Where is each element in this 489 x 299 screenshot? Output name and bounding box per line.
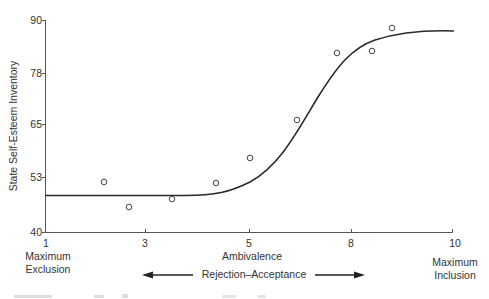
data-point	[213, 180, 219, 186]
x-tick-label: 5	[246, 237, 252, 249]
right-arrow-icon	[354, 272, 365, 279]
data-point	[101, 179, 107, 185]
fitted-curve	[45, 31, 454, 196]
data-point	[169, 196, 175, 202]
y-tick-label: 90	[30, 14, 42, 26]
y-tick-label: 78	[30, 67, 42, 79]
ambivalence-label: Ambivalence	[222, 250, 282, 263]
data-point	[389, 25, 395, 31]
data-point	[247, 155, 253, 161]
x-tick-label: 3	[142, 237, 148, 249]
y-tick-label: 40	[30, 226, 42, 238]
x-axis-label: Rejection–Acceptance	[202, 268, 306, 280]
figure-caption-cutoff	[12, 291, 302, 299]
data-point	[334, 50, 340, 56]
data-point	[369, 48, 375, 54]
axes	[42, 20, 453, 233]
x-tick-label: 1	[43, 237, 49, 249]
left-arrow-icon	[142, 272, 153, 279]
max-inclusion-label: Maximum Inclusion	[432, 256, 478, 282]
data-point	[126, 204, 132, 210]
x-tick-label: 8	[348, 237, 354, 249]
y-tick-label: 53	[30, 171, 42, 183]
y-axis-label: State Self-Esteem Inventory	[7, 61, 19, 192]
x-tick-label: 10	[449, 237, 461, 249]
data-point	[294, 117, 300, 123]
y-tick-label: 65	[30, 118, 42, 130]
max-exclusion-label: Maximum Exclusion	[25, 250, 71, 276]
